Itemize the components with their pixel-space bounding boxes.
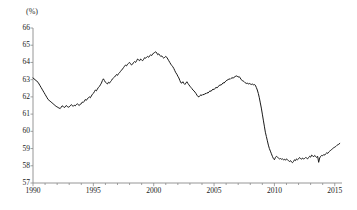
chart-container: (%) 57585960616263646566 199019952000200… [0, 0, 357, 210]
x-tick-label: 2010 [261, 187, 287, 195]
data-series-line [33, 52, 340, 163]
y-tick-label: 66 [16, 24, 30, 32]
x-tick-label: 1990 [20, 187, 46, 195]
y-tick-label: 64 [16, 58, 30, 66]
y-tick-label: 59 [16, 145, 30, 153]
x-tick-label: 1995 [80, 187, 106, 195]
y-tick-label: 58 [16, 162, 30, 170]
y-tick-label: 61 [16, 110, 30, 118]
y-tick-label: 63 [16, 76, 30, 84]
line-chart-plot [0, 0, 357, 210]
y-tick-label: 60 [16, 127, 30, 135]
x-tick-label: 2000 [141, 187, 167, 195]
y-tick-label: 65 [16, 41, 30, 49]
tick-marks-group [31, 28, 335, 186]
x-tick-label: 2005 [201, 187, 227, 195]
x-tick-label: 2015 [322, 187, 348, 195]
y-tick-label: 62 [16, 93, 30, 101]
